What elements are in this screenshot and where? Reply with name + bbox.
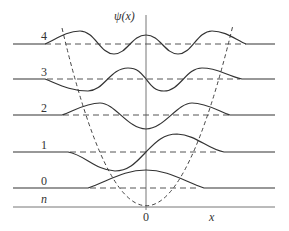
wavefunctions <box>13 31 275 188</box>
level-label-2: 2 <box>41 101 47 115</box>
oscillator-diagram: ψ(x) x 0 n 0 1 2 3 4 <box>0 0 289 231</box>
wavefunction-2 <box>13 103 275 129</box>
level-label-4: 4 <box>41 29 47 43</box>
level-label-1: 1 <box>41 138 47 152</box>
level-label-0: 0 <box>41 174 47 188</box>
wavefunction-0 <box>13 170 275 188</box>
level-label-3: 3 <box>41 65 47 79</box>
level-axis-label: n <box>41 192 47 206</box>
x-axis-label: x <box>208 210 215 224</box>
wavefunction-4 <box>13 31 275 54</box>
origin-label: 0 <box>143 210 149 224</box>
y-axis-label: ψ(x) <box>114 9 135 23</box>
